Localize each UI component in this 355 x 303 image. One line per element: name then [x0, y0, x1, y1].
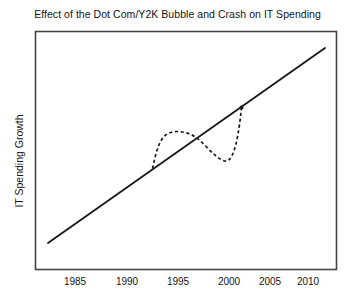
x-tick-label-1990: 1990: [107, 276, 147, 288]
x-tick-label-2005: 2005: [250, 276, 290, 288]
x-tick-label-1985: 1985: [55, 276, 95, 288]
x-tick-label-1995: 1995: [158, 276, 198, 288]
trend-line-series: [48, 48, 325, 243]
x-axis-tick-labels: 1985 1990 1995 2000 2005 2010: [0, 276, 355, 292]
x-tick-label-2010: 2010: [288, 276, 328, 288]
chart-figure: Effect of the Dot Com/Y2K Bubble and Cra…: [0, 0, 355, 303]
plot-area: [0, 0, 355, 303]
x-tick-label-2000: 2000: [209, 276, 249, 288]
rejoin-point-marker: [240, 106, 244, 110]
plot-frame: [36, 32, 337, 270]
